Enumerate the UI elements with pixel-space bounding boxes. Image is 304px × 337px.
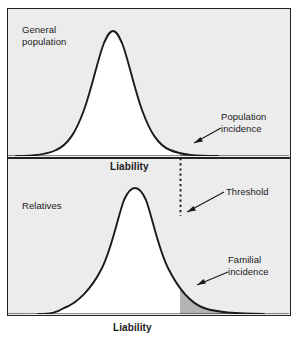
axis-label-liability-top: Liability: [110, 161, 149, 173]
label-population-incidence: Population incidence: [221, 111, 266, 134]
label-relatives: Relatives: [22, 200, 62, 212]
label-familial-incidence: Familial incidence: [228, 254, 269, 277]
label-general-population: General population: [22, 24, 66, 47]
liability-threshold-figure: General population Population incidence …: [0, 0, 304, 337]
panel-relatives: [7, 158, 291, 316]
label-threshold: Threshold: [226, 186, 269, 198]
axis-label-liability-bottom: Liability: [113, 322, 152, 334]
